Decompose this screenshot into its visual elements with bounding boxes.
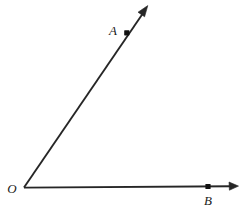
angle-diagram-figure: A B O xyxy=(0,0,242,209)
ray-ob-arrowhead-icon xyxy=(229,182,239,190)
point-a-dot xyxy=(124,30,129,35)
label-point-a: A xyxy=(108,23,117,38)
ray-ob-line xyxy=(24,186,232,187)
point-b-dot xyxy=(205,184,210,189)
ray-oa-line xyxy=(24,13,144,188)
label-vertex-o: O xyxy=(7,181,17,196)
angle-diagram-canvas: A B O xyxy=(0,0,242,209)
label-point-b: B xyxy=(204,193,212,208)
ray-oa-arrowhead-icon xyxy=(138,6,148,17)
